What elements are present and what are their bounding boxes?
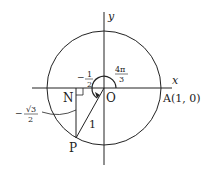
y-axis-label: y bbox=[107, 10, 115, 23]
sin-sign: − bbox=[15, 108, 23, 118]
right-angle-mark bbox=[76, 88, 83, 95]
cos-sign: − bbox=[77, 72, 85, 82]
cos-numerator: 1 bbox=[87, 70, 92, 79]
point-p-label: P bbox=[69, 141, 77, 155]
angle-denominator: 3 bbox=[119, 75, 124, 84]
point-n-label: N bbox=[63, 91, 74, 105]
point-a-label: A(1, 0) bbox=[162, 92, 201, 105]
sin-leader bbox=[42, 110, 76, 115]
angle-numerator: 4π bbox=[115, 65, 125, 74]
sin-numerator: √3 bbox=[26, 105, 36, 114]
sin-denominator: 2 bbox=[28, 115, 33, 124]
x-axis-label: x bbox=[172, 74, 179, 87]
origin-label: O bbox=[106, 91, 116, 105]
radius-label: 1 bbox=[89, 118, 96, 131]
cos-denominator: 2 bbox=[87, 80, 92, 89]
unit-circle-diagram: y x O A(1, 0) N P 1 4π 3 − 1 2 − √3 2 bbox=[0, 0, 214, 172]
